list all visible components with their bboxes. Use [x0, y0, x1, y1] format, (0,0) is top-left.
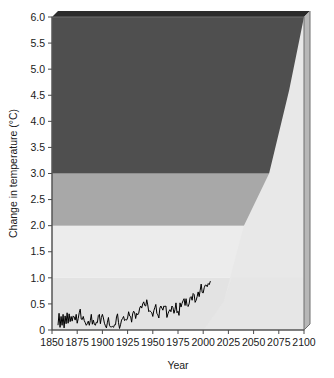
x-tick-label: 2000	[192, 336, 216, 348]
y-tick-label: 1.5	[30, 245, 45, 257]
plot-area	[52, 17, 304, 330]
x-axis-title: Year	[167, 359, 189, 371]
x-tick-label: 1850	[40, 336, 64, 348]
x-tick-label: 1875	[66, 336, 90, 348]
y-axis-title: Change in temperature (°C)	[7, 109, 19, 238]
y-tick-label: 3.0	[30, 167, 45, 179]
climate-projection-chart: 00.51.01.52.02.53.03.54.04.55.05.56.0 18…	[0, 0, 334, 378]
y-tick-label: 0	[39, 324, 45, 336]
y-tick-label: 0.5	[30, 298, 45, 310]
chart-depth-right	[304, 11, 310, 330]
y-tick-label: 5.5	[30, 37, 45, 49]
y-tick-label: 2.5	[30, 193, 45, 205]
chart-figure: 00.51.01.52.02.53.03.54.04.55.05.56.0 18…	[0, 0, 334, 378]
y-tick-label: 4.0	[30, 115, 45, 127]
x-tick-label: 1925	[116, 336, 140, 348]
x-axis-ticks: 1850187519001925195019752000202520502075…	[40, 330, 316, 348]
x-tick-label: 1975	[166, 336, 190, 348]
y-tick-label: 5.0	[30, 63, 45, 75]
x-tick-label: 2100	[292, 336, 316, 348]
y-tick-label: 6.0	[30, 11, 45, 23]
chart-depth-top	[52, 11, 310, 17]
y-tick-label: 1.0	[30, 272, 45, 284]
y-axis-ticks: 00.51.01.52.02.53.03.54.04.55.05.56.0	[30, 11, 52, 336]
x-tick-label: 1900	[91, 336, 115, 348]
y-tick-label: 2.0	[30, 219, 45, 231]
band-above-3c	[52, 17, 304, 174]
x-tick-label: 1950	[141, 336, 165, 348]
x-tick-label: 2075	[267, 336, 291, 348]
y-tick-label: 4.5	[30, 89, 45, 101]
x-tick-label: 2050	[242, 336, 266, 348]
y-tick-label: 3.5	[30, 141, 45, 153]
x-tick-label: 2025	[217, 336, 241, 348]
